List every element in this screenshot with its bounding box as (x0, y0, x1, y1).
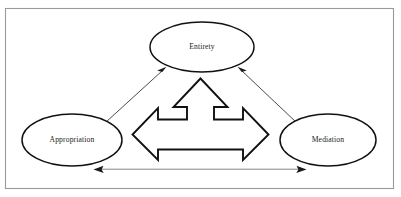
node-mediation[interactable]: Mediation (280, 114, 376, 166)
node-appropriation[interactable]: Appropriation (22, 114, 122, 166)
node-appropriation-label: Appropriation (50, 135, 95, 144)
diagram-canvas: Entirety Appropriation Mediation (0, 0, 401, 197)
node-mediation-label: Mediation (312, 135, 345, 144)
node-entirety-label: Entirety (189, 42, 215, 51)
node-entirety[interactable]: Entirety (150, 22, 254, 72)
diagram-container: Entirety Appropriation Mediation (0, 0, 401, 197)
